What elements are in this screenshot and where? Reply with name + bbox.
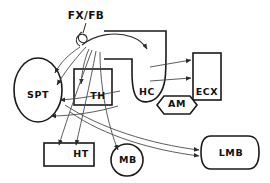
circuit-diagram: FX/FB SPT TH HC ECX AM HT MB LMB	[0, 0, 270, 183]
bundle-label-fx-fb: FX/FB	[68, 9, 104, 21]
node-label-ht: HT	[73, 148, 89, 159]
node-label-hc: HC	[139, 86, 155, 97]
node-label-ecx: ECX	[196, 86, 219, 97]
fx-fb-leader-line	[83, 23, 86, 33]
diagram-canvas: FX/FB SPT TH HC ECX AM HT MB LMB	[0, 0, 270, 183]
node-hc-shape	[104, 31, 166, 102]
fx-fb-loop	[76, 32, 87, 46]
node-label-mb: MB	[119, 154, 137, 165]
node-label-lmb: LMB	[219, 147, 244, 158]
node-label-th: TH	[90, 90, 106, 101]
node-label-spt: SPT	[27, 89, 49, 100]
node-label-am: AM	[168, 98, 186, 109]
